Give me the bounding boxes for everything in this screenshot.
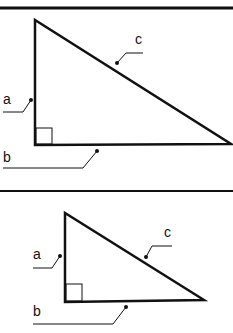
leg-b-label-2: b (33, 303, 41, 319)
leg-b-leader-2 (33, 307, 126, 324)
panel-2: a b c (0, 191, 233, 324)
leg-b-label-1: b (3, 149, 11, 165)
hypotenuse-c-leader-2 (146, 246, 172, 257)
right-triangle-diagram: a b c a b c (0, 0, 233, 333)
hypotenuse-c-label-2: c (164, 224, 171, 240)
hypotenuse-c-label-1: c (135, 31, 142, 47)
right-angle-marker-2 (66, 284, 82, 301)
triangle-2 (65, 213, 204, 302)
leg-b-leader-1 (3, 151, 97, 168)
triangle-1 (35, 20, 231, 145)
leg-a-label-1: a (3, 91, 11, 107)
hypotenuse-c-leader-1 (117, 53, 143, 63)
panel-1: a b c (0, 8, 233, 168)
right-angle-marker-1 (36, 128, 52, 144)
leg-a-label-2: a (33, 246, 41, 262)
